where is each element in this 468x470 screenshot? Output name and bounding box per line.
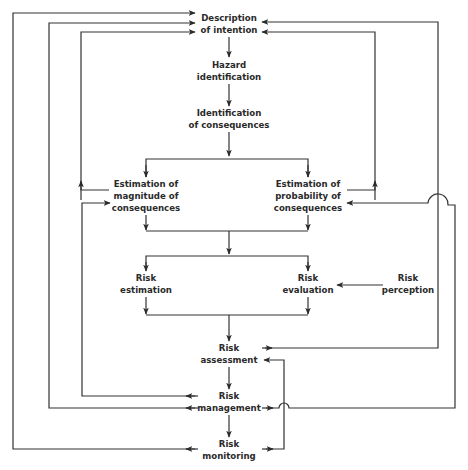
node-estimation-of-probability: Estimation of probability of consequence… (274, 179, 342, 213)
node-identification-of-consequences: Identification of consequences (189, 108, 270, 130)
node-label-line: perception (382, 285, 434, 295)
node-label-line: identification (197, 72, 261, 82)
node-label-line: evaluation (282, 285, 333, 295)
branch-to-estimations (146, 159, 308, 177)
node-risk-perception: Risk perception (382, 273, 434, 295)
node-hazard-identification: Hazard identification (197, 60, 261, 82)
node-description-of-intention: Description of intention (201, 13, 258, 35)
main-flow-arrows (146, 37, 383, 437)
node-label-line: Hazard (212, 60, 246, 70)
node-risk-monitoring: Risk monitoring (202, 439, 255, 461)
node-label-line: Estimation of (114, 179, 179, 189)
node-label-line: management (197, 403, 261, 413)
risk-flowchart: Description of intention Hazard identifi… (0, 0, 468, 470)
node-label-line: Estimation of (276, 179, 341, 189)
node-risk-management: Risk management (197, 391, 261, 413)
feedback-right (262, 22, 455, 449)
node-label-line: consequences (274, 203, 342, 213)
node-risk-estimation: Risk estimation (120, 273, 172, 295)
node-label-line: Risk (219, 391, 240, 401)
node-label-line: monitoring (202, 451, 255, 461)
node-label-line: of intention (201, 25, 258, 35)
node-label-line: of consequences (189, 120, 270, 130)
node-label-line: probability of (275, 191, 341, 201)
node-risk-evaluation: Risk evaluation (282, 273, 333, 295)
node-label-line: assessment (200, 355, 257, 365)
node-label-line: Description (201, 13, 257, 23)
node-label-line: Risk (219, 439, 240, 449)
node-label-line: magnitude of (114, 191, 179, 201)
feedback-management-to-description (49, 23, 195, 408)
branch-to-risk-est-eval (146, 256, 308, 270)
node-label-line: Identification (197, 108, 262, 118)
node-label-line: Risk (136, 273, 157, 283)
node-label-line: Risk (398, 273, 419, 283)
feedback-management-to-magnitude (82, 203, 195, 396)
feedback-magnitude-to-description (81, 32, 195, 190)
feedback-management-to-probability (266, 194, 455, 408)
feedback-probability-to-description (262, 32, 375, 190)
node-label-line: consequences (112, 203, 180, 213)
node-label-line: Risk (298, 273, 319, 283)
node-label-line: Risk (219, 343, 240, 353)
node-label-line: estimation (120, 285, 172, 295)
node-estimation-of-magnitude: Estimation of magnitude of consequences (112, 179, 180, 213)
node-risk-assessment: Risk assessment (200, 343, 257, 365)
